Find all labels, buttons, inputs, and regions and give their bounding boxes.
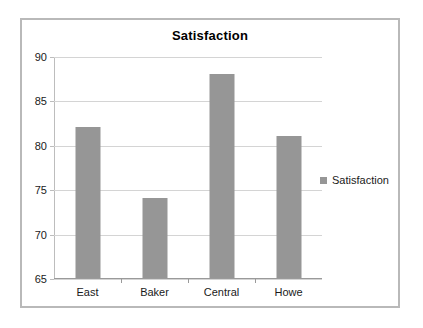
bar xyxy=(209,74,234,278)
bar xyxy=(276,136,301,278)
y-tick-mark xyxy=(50,57,54,58)
y-axis-line xyxy=(54,57,55,279)
y-tick-label: 65 xyxy=(35,273,47,285)
y-tick-mark xyxy=(50,279,54,280)
chart-title: Satisfaction xyxy=(22,28,398,43)
x-tick-mark xyxy=(255,279,256,283)
x-tick-label: Baker xyxy=(140,286,169,298)
y-tick-mark xyxy=(50,146,54,147)
x-tick-label: East xyxy=(76,286,98,298)
x-tick-label: Central xyxy=(204,286,239,298)
x-tick-mark xyxy=(188,279,189,283)
chart-container: Satisfaction 657075808590 EastBakerCentr… xyxy=(20,18,400,308)
legend-swatch-icon xyxy=(320,177,327,184)
x-tick-label: Howe xyxy=(274,286,302,298)
chart-legend: Satisfaction xyxy=(320,174,389,186)
y-tick-label: 70 xyxy=(35,229,47,241)
gridline xyxy=(54,57,322,58)
bar xyxy=(75,127,100,278)
y-tick-label: 75 xyxy=(35,184,47,196)
y-tick-mark xyxy=(50,190,54,191)
y-tick-mark xyxy=(50,101,54,102)
legend-label: Satisfaction xyxy=(332,174,389,186)
y-tick-label: 85 xyxy=(35,95,47,107)
x-tick-mark xyxy=(121,279,122,283)
bar xyxy=(142,198,167,278)
plot-area: 657075808590 EastBakerCentralHowe xyxy=(54,57,322,279)
y-tick-mark xyxy=(50,235,54,236)
y-tick-label: 80 xyxy=(35,140,47,152)
gridline xyxy=(54,101,322,102)
y-tick-label: 90 xyxy=(35,51,47,63)
